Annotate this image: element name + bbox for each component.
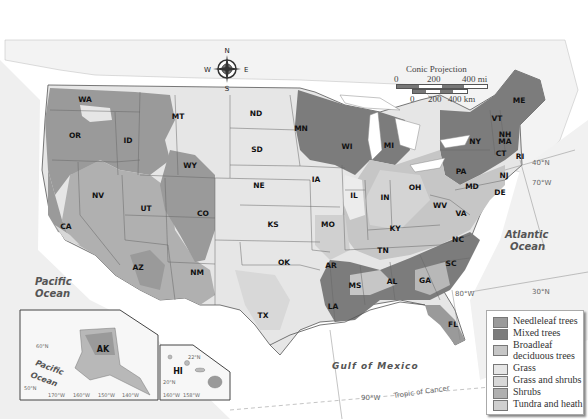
- state-label-me: ME: [513, 96, 526, 105]
- svg-text:158°W: 158°W: [183, 392, 200, 398]
- state-label-al: AL: [387, 277, 398, 286]
- svg-text:70°W: 70°W: [532, 179, 551, 187]
- svg-text:80°W: 80°W: [455, 290, 474, 298]
- state-label-nc: NC: [452, 235, 464, 244]
- alaska-inset: AK Pacific Ocean 170°W 160°W 150°W 140°W…: [20, 310, 158, 400]
- state-label-ca: CA: [60, 222, 72, 231]
- state-label-sd: SD: [251, 145, 263, 154]
- state-label-tx: TX: [258, 311, 269, 320]
- state-label-ga: GA: [419, 276, 431, 285]
- svg-text:N: N: [224, 47, 229, 55]
- svg-text:160°W: 160°W: [163, 392, 180, 398]
- state-label-va: VA: [455, 209, 466, 218]
- svg-text:E: E: [244, 66, 248, 74]
- state-label-vt: VT: [492, 114, 504, 123]
- state-label-wv: WV: [433, 201, 447, 210]
- state-label-nd: ND: [250, 109, 263, 118]
- state-label-az: AZ: [132, 263, 144, 272]
- map-legend: Needleleaf trees Mixed trees Broadleaf d…: [486, 310, 584, 415]
- state-label-ma: MA: [498, 137, 511, 146]
- state-label-hi: HI: [173, 367, 183, 376]
- state-label-ak: AK: [97, 345, 110, 354]
- svg-text:140°W: 140°W: [122, 392, 139, 398]
- state-label-or: OR: [69, 131, 81, 140]
- state-label-in: IN: [380, 193, 389, 202]
- state-label-ks: KS: [267, 220, 278, 229]
- state-label-la: LA: [328, 302, 339, 311]
- pacific-ocean-label: Pacific: [35, 276, 72, 287]
- svg-text:60°N: 60°N: [36, 343, 49, 349]
- state-label-wi: WI: [341, 142, 352, 151]
- svg-text:170°W: 170°W: [48, 392, 65, 398]
- state-label-nm: NM: [190, 268, 204, 277]
- legend-item-broadleaf: Broadleaf deciduous trees: [493, 339, 583, 361]
- tundra-swatch: [493, 400, 508, 411]
- state-label-md: MD: [465, 182, 479, 191]
- state-label-tn: TN: [377, 246, 388, 255]
- state-label-pa: PA: [456, 167, 467, 176]
- state-label-ny: NY: [469, 137, 481, 146]
- state-label-mi: MI: [384, 141, 394, 150]
- state-label-ky: KY: [389, 224, 401, 233]
- svg-text:50°N: 50°N: [24, 385, 37, 391]
- gulf-of-mexico-label: Gulf of Mexico: [332, 361, 419, 371]
- state-label-ri: RI: [516, 152, 525, 161]
- svg-text:90°W: 90°W: [361, 394, 380, 402]
- state-label-ms: MS: [349, 281, 362, 290]
- state-label-id: ID: [123, 136, 132, 145]
- state-label-fl: FL: [448, 320, 458, 329]
- state-label-co: CO: [197, 209, 209, 218]
- state-label-nj: NJ: [499, 171, 508, 180]
- state-label-ct: CT: [496, 149, 508, 158]
- state-label-mn: MN: [294, 124, 308, 133]
- state-label-ut: UT: [140, 204, 152, 213]
- svg-text:150°W: 150°W: [98, 392, 115, 398]
- state-label-sc: SC: [446, 259, 457, 268]
- svg-text:Ocean: Ocean: [35, 288, 70, 299]
- broadleaf-swatch: [493, 345, 508, 356]
- state-label-ok: OK: [278, 258, 291, 267]
- svg-text:40°N: 40°N: [532, 159, 550, 167]
- svg-text:Ocean: Ocean: [510, 241, 545, 252]
- svg-text:30°N: 30°N: [532, 288, 550, 296]
- state-label-mt: MT: [172, 112, 185, 121]
- svg-text:22°N: 22°N: [188, 354, 201, 360]
- svg-text:160°W: 160°W: [73, 392, 90, 398]
- state-label-wa: WA: [78, 95, 92, 104]
- state-label-nv: NV: [92, 191, 104, 200]
- state-label-il: IL: [350, 191, 358, 200]
- svg-text:S: S: [225, 85, 230, 93]
- legend-item-tundra: Tundra and heath: [493, 398, 588, 411]
- svg-text:20°N: 20°N: [163, 379, 176, 385]
- state-label-ne: NE: [253, 181, 264, 190]
- state-label-de: DE: [494, 188, 505, 197]
- state-label-wy: WY: [183, 161, 197, 170]
- atlantic-ocean-label: Atlantic: [504, 229, 548, 240]
- projection-label: Conic Projection: [406, 64, 467, 74]
- state-label-oh: OH: [409, 183, 422, 192]
- svg-text:W: W: [204, 66, 211, 74]
- state-label-mo: MO: [321, 220, 335, 229]
- state-label-ia: IA: [312, 175, 321, 184]
- state-label-ar: AR: [325, 261, 337, 270]
